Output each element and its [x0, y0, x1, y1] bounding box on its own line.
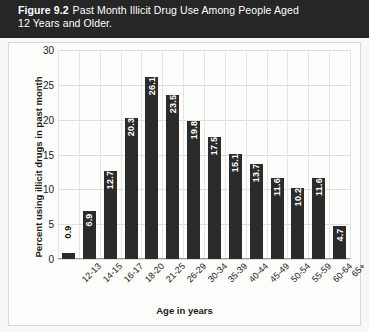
bar-value-label: 26.1	[147, 77, 157, 95]
caption-title-part1: Past Month Illicit Drug Use Among People…	[73, 4, 299, 16]
caption-line-2: 12 Years and Older.	[18, 17, 357, 30]
bar: 4.7	[333, 226, 346, 259]
bar: 6.9	[83, 211, 96, 259]
x-axis-title: Age in years	[0, 305, 369, 316]
figure-caption-banner: Figure 9.2Past Month Illicit Drug Use Am…	[0, 0, 369, 38]
bar-value-label: 12.7	[105, 170, 115, 188]
bar: 11.6	[271, 178, 284, 259]
gridline-vertical	[225, 50, 226, 259]
y-axis-tick-label: 0	[26, 254, 54, 265]
x-axis-tick-label: 40-44	[247, 261, 270, 284]
gridline-vertical	[267, 50, 268, 259]
gridline-vertical	[183, 50, 184, 259]
gridline-vertical	[287, 50, 288, 259]
gridline-vertical	[79, 50, 80, 259]
y-axis-tick-label: 15	[26, 149, 54, 160]
figure-container: Figure 9.2Past Month Illicit Drug Use Am…	[0, 0, 369, 332]
x-axis-tick-label: 30-34	[205, 261, 228, 284]
gridline-vertical	[350, 50, 351, 259]
gridline-vertical	[58, 50, 59, 259]
bar-value-label: 11.6	[314, 178, 324, 196]
x-axis-tick-label: 35-39	[226, 261, 249, 284]
gridline-vertical	[246, 50, 247, 259]
bar-value-label: 10.2	[293, 188, 303, 206]
x-axis-tick-label: 45-49	[268, 261, 291, 284]
y-axis-tick-labels: 051015202530	[22, 50, 54, 259]
x-axis-tick-label: 12-13	[80, 261, 103, 284]
bar: 15.1	[229, 154, 242, 259]
y-axis-tick-label: 10	[26, 184, 54, 195]
gridline-horizontal	[58, 259, 350, 260]
bar-value-label: 23.5	[168, 95, 178, 113]
bar-value-label: 13.7	[251, 163, 261, 181]
x-axis-line	[58, 258, 350, 259]
y-axis-tick-label: 5	[26, 219, 54, 230]
bar-value-label: 6.9	[84, 213, 94, 226]
bar-value-label: 11.6	[272, 178, 282, 196]
plot-area: 0.96.912.720.326.123.519.817.515.113.711…	[58, 50, 350, 259]
bar-value-label: 15.1	[230, 154, 240, 172]
bar: 12.7	[104, 171, 117, 259]
x-axis-tick-label: 55-59	[310, 261, 333, 284]
gridline-vertical	[329, 50, 330, 259]
caption-line-1: Figure 9.2Past Month Illicit Drug Use Am…	[18, 4, 357, 17]
x-axis-tick-label: 16-17	[122, 261, 145, 284]
gridline-vertical	[100, 50, 101, 259]
gridline-vertical	[308, 50, 309, 259]
gridline-vertical	[141, 50, 142, 259]
bar: 0.9	[62, 253, 75, 259]
x-axis-tick-label: 26-29	[184, 261, 207, 284]
y-axis-tick-label: 25	[26, 79, 54, 90]
gridline-vertical	[204, 50, 205, 259]
bar-value-label: 0.9	[63, 225, 73, 238]
bar-value-label: 20.3	[126, 117, 136, 135]
x-axis-tick-label: 14-15	[101, 261, 124, 284]
bar: 26.1	[145, 77, 158, 259]
bar: 10.2	[291, 188, 304, 259]
bar-value-label: 4.7	[335, 229, 345, 242]
bar: 11.6	[312, 178, 325, 259]
gridline-vertical	[121, 50, 122, 259]
x-axis-tick-label: 18-20	[143, 261, 166, 284]
bar-value-label: 19.8	[189, 121, 199, 139]
x-axis-tick-labels: 12-1314-1516-1718-2021-2526-2930-3435-39…	[58, 261, 350, 301]
bar-value-label: 17.5	[209, 137, 219, 155]
bar: 13.7	[250, 164, 263, 259]
x-axis-tick-label: 50-54	[289, 261, 312, 284]
gridline-vertical	[162, 50, 163, 259]
y-axis-tick-label: 30	[26, 45, 54, 56]
bar: 19.8	[187, 121, 200, 259]
figure-number: Figure 9.2	[18, 4, 69, 16]
x-axis-tick-label: 21-25	[164, 261, 187, 284]
y-axis-tick-label: 20	[26, 114, 54, 125]
bar: 23.5	[166, 95, 179, 259]
bar: 20.3	[125, 118, 138, 259]
bar: 17.5	[208, 137, 221, 259]
